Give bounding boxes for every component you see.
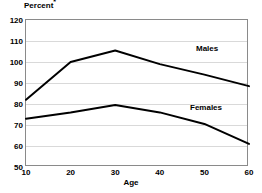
y-tick-label: 60 [14,142,23,151]
y-tick-label: 70 [14,121,23,130]
y-axis-title: Percent* [24,1,56,10]
x-tick-label: 10 [22,168,31,177]
y-tick-label: 80 [14,100,23,109]
y-tick-label: 90 [14,79,23,88]
x-tick-label: 50 [200,168,209,177]
y-tick-label: 110 [10,37,23,46]
series-label-females: Females [190,103,222,112]
x-tick-label: 40 [155,168,164,177]
y-tick-label: 120 [10,16,23,25]
series-label-males: Males [196,44,218,53]
series-lines-layer [26,20,249,167]
x-tick-label: 30 [111,168,120,177]
x-axis-title: Age [0,178,262,187]
plot-area: 5060708090100110120 102030405060 [25,19,248,166]
series-line-males [26,50,249,99]
x-tick-label: 20 [66,168,75,177]
chart-container: Percent* 5060708090100110120 10203040506… [0,0,262,193]
footnote-asterisk: * [53,0,56,5]
y-tick-label: 100 [10,58,23,67]
y-axis-title-text: Percent [24,1,53,10]
x-tick-label: 60 [245,168,254,177]
